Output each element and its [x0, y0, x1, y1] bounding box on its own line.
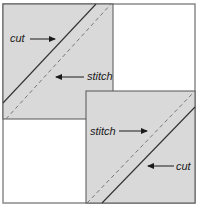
cut-label: cut [10, 32, 26, 44]
cut-label: cut [176, 160, 192, 172]
stitch-label: stitch [90, 125, 116, 137]
bottom-right-block: stitchcut [86, 91, 195, 203]
quilt-diagram: cutstitchstitchcut [0, 0, 202, 210]
stitch-label: stitch [87, 70, 113, 82]
